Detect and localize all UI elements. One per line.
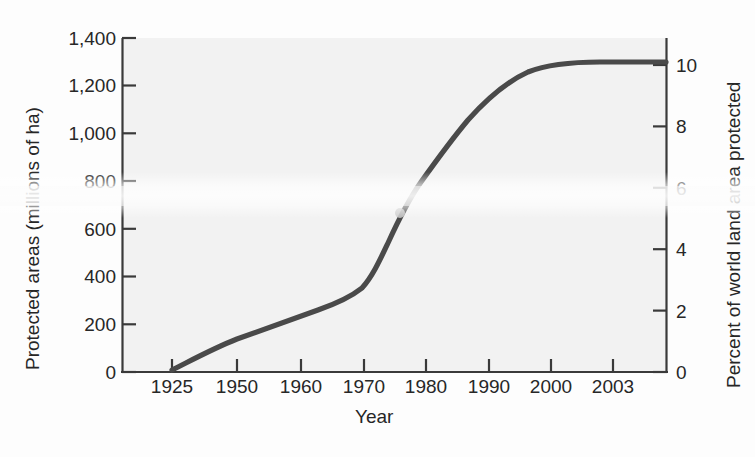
scan-artifact-dot xyxy=(395,208,405,218)
chart-plot-area xyxy=(0,0,755,457)
plot-background xyxy=(122,38,667,372)
chart-page: 1,400 1,200 1,000 800 600 400 200 0 10 8… xyxy=(0,0,755,457)
